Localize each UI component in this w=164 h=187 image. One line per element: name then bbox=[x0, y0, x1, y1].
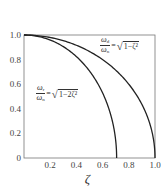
y-tick-label: 0.8 bbox=[10, 55, 22, 65]
chart: 00.20.40.60.81.00.20.40.60.81.0ζ bbox=[0, 0, 164, 187]
sqrt-icon: √1−2ζ² bbox=[52, 88, 78, 100]
equals-sign: = bbox=[46, 89, 51, 98]
x-tick-label: 0.6 bbox=[97, 160, 109, 170]
fraction: ωr ωn bbox=[36, 84, 45, 103]
y-tick-label: 0.4 bbox=[10, 104, 22, 114]
y-tick-label: 1.0 bbox=[10, 30, 22, 40]
x-tick-label: 0.4 bbox=[71, 160, 83, 170]
fraction: ωd ωn bbox=[100, 36, 110, 55]
y-tick-label: 0.6 bbox=[10, 79, 22, 89]
y-tick-label: 0 bbox=[17, 153, 22, 163]
y-tick-label: 0.2 bbox=[10, 128, 21, 138]
sqrt-icon: √1−ζ² bbox=[117, 40, 139, 52]
equals-sign: = bbox=[111, 41, 116, 50]
x-axis-label: ζ bbox=[85, 171, 91, 186]
annotation-damped-frequency: ωd ωn = √1−ζ² bbox=[100, 36, 139, 55]
x-tick-label: 0.2 bbox=[45, 160, 56, 170]
x-tick-label: 1.0 bbox=[149, 160, 161, 170]
annotation-resonant-frequency: ωr ωn = √1−2ζ² bbox=[36, 84, 78, 103]
x-tick-label: 0.8 bbox=[123, 160, 135, 170]
